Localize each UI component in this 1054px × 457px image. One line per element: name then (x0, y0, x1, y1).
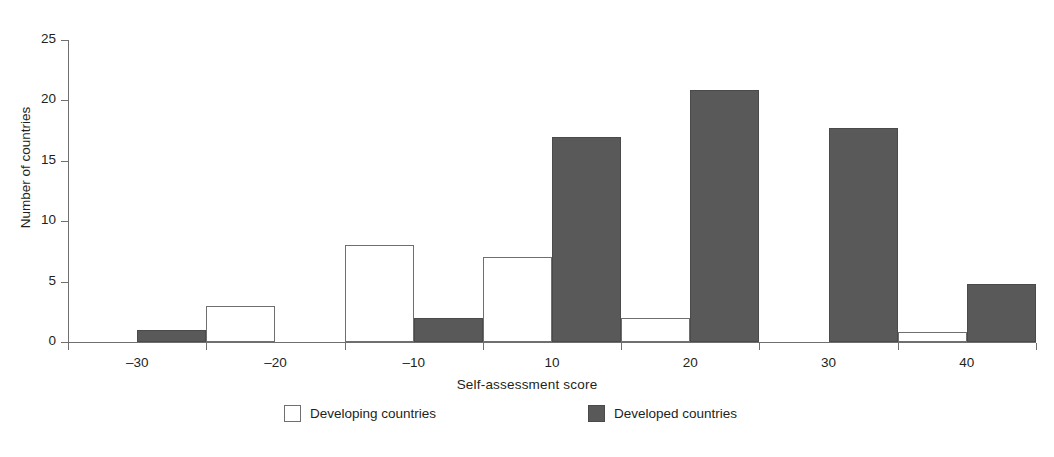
x-tick-label-10: 10 (544, 355, 559, 370)
y-tick-25 (61, 40, 68, 41)
y-tick-5 (61, 282, 68, 283)
bar-developed--10 (414, 318, 483, 342)
x-tick-20 (621, 343, 622, 350)
bar-developed--30 (137, 330, 206, 342)
y-tick-20 (61, 100, 68, 101)
chart-legend: Developing countries Developed countries (0, 405, 1054, 435)
legend-swatch-gray-square (588, 405, 605, 422)
y-axis-title: Number of countries (18, 48, 33, 288)
y-tick-label-25: 25 (28, 31, 56, 46)
bar-developing-40 (898, 332, 967, 342)
x-tick-label-20: 20 (683, 355, 698, 370)
y-tick-15 (61, 161, 68, 162)
x-tick-label-40: 40 (959, 355, 974, 370)
x-tick-label--10: –10 (402, 355, 425, 370)
legend-item-developed: Developed countries (588, 405, 737, 422)
x-axis-line (68, 342, 1036, 343)
legend-label-developing: Developing countries (310, 406, 436, 421)
histogram-figure: 0510152025 Number of countries –30–20–10… (0, 0, 1054, 457)
bar-developing-20 (621, 318, 690, 342)
bar-developing-10 (483, 257, 552, 342)
y-tick-label-0: 0 (28, 333, 56, 348)
bar-developing--20 (206, 306, 275, 342)
x-tick-10 (483, 343, 484, 350)
x-tick-40 (898, 343, 899, 350)
x-tick-end (1036, 343, 1037, 350)
x-tick-30 (759, 343, 760, 350)
plot-area (68, 40, 1036, 342)
x-tick--20 (206, 343, 207, 350)
bar-developed-30 (829, 128, 898, 342)
x-axis-title: Self-assessment score (0, 377, 1054, 392)
bar-developed-10 (552, 137, 621, 342)
bar-developed-40 (967, 284, 1036, 342)
legend-label-developed: Developed countries (614, 406, 737, 421)
x-tick-origin (68, 343, 69, 350)
x-tick--10 (345, 343, 346, 350)
bar-developing--10 (345, 245, 414, 342)
y-tick-10 (61, 221, 68, 222)
legend-item-developing: Developing countries (284, 405, 436, 422)
bar-developed-20 (690, 90, 759, 342)
x-tick-label-30: 30 (821, 355, 836, 370)
x-tick-label--20: –20 (264, 355, 287, 370)
y-tick-0 (61, 342, 68, 343)
legend-swatch-white-square (284, 405, 301, 422)
x-tick-label--30: –30 (126, 355, 149, 370)
